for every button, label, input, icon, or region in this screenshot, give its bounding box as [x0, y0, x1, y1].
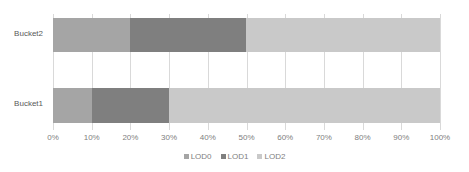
bar-segment-lod2[interactable]: [169, 88, 440, 123]
axis-tick-label: 80%: [355, 133, 371, 142]
legend-label: LOD0: [191, 152, 212, 161]
bar-segment-lod0[interactable]: [53, 88, 92, 123]
category-axis: Bucket2 Bucket1: [0, 14, 48, 130]
legend-label: LOD2: [264, 152, 285, 161]
value-axis-ticks: 0%10%20%30%40%50%60%70%80%90%100%: [53, 133, 440, 147]
legend-swatch-icon: [221, 154, 226, 159]
axis-tick-label: 100%: [430, 133, 450, 142]
legend-swatch-icon: [257, 154, 262, 159]
axis-tick-label: 60%: [277, 133, 293, 142]
gridline: [440, 14, 441, 130]
legend-swatch-icon: [184, 154, 189, 159]
stacked-bar-chart: Bucket2 Bucket1 0%10%20%30%40%50%60%70%8…: [0, 0, 469, 172]
legend: LOD0LOD1LOD2: [0, 152, 469, 161]
bar-segment-lod1[interactable]: [130, 18, 246, 52]
axis-tick-label: 10%: [84, 133, 100, 142]
bar-row[interactable]: [53, 88, 440, 123]
axis-tick-label: 0%: [47, 133, 59, 142]
axis-tick-label: 50%: [238, 133, 254, 142]
axis-tick-label: 20%: [122, 133, 138, 142]
legend-label: LOD1: [228, 152, 249, 161]
bar-row[interactable]: [53, 18, 440, 52]
bar-segment-lod2[interactable]: [246, 18, 440, 52]
category-label-bucket1: Bucket1: [14, 99, 43, 108]
axis-tick-label: 90%: [393, 133, 409, 142]
legend-item[interactable]: LOD2: [257, 152, 285, 161]
bar-segment-lod0[interactable]: [53, 18, 130, 52]
legend-item[interactable]: LOD1: [221, 152, 249, 161]
category-label-bucket2: Bucket2: [14, 29, 43, 38]
axis-tick-label: 40%: [200, 133, 216, 142]
plot-area: [53, 14, 440, 130]
axis-tick-label: 30%: [161, 133, 177, 142]
legend-item[interactable]: LOD0: [184, 152, 212, 161]
axis-tick-label: 70%: [316, 133, 332, 142]
bar-segment-lod1[interactable]: [92, 88, 169, 123]
